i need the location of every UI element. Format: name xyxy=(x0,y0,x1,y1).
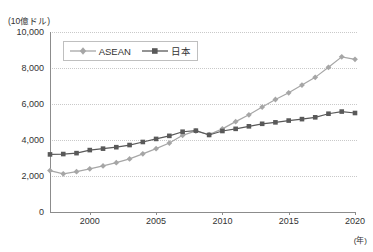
data-point-marker xyxy=(153,146,159,152)
data-point-marker xyxy=(61,152,66,157)
series-asean xyxy=(47,54,358,177)
data-point-marker xyxy=(260,122,265,127)
asean-series-marker-icon xyxy=(70,46,96,56)
data-point-marker xyxy=(140,151,146,157)
data-point-marker xyxy=(352,56,358,62)
data-point-marker xyxy=(299,82,305,88)
data-point-marker xyxy=(247,124,252,129)
data-point-marker xyxy=(167,134,172,139)
data-point-marker xyxy=(313,115,318,120)
series-japan xyxy=(48,109,358,156)
data-point-marker xyxy=(286,118,291,123)
data-point-marker xyxy=(47,168,53,174)
data-point-marker xyxy=(326,111,331,116)
legend-entry-japan: 日本 xyxy=(142,44,191,58)
data-point-marker xyxy=(127,156,133,162)
data-point-marker xyxy=(141,140,146,145)
data-point-marker xyxy=(87,148,92,153)
data-point-marker xyxy=(60,171,66,177)
legend-label-japan: 日本 xyxy=(171,44,191,58)
data-point-marker xyxy=(286,90,292,96)
data-point-marker xyxy=(74,151,79,156)
series-layer xyxy=(0,0,373,252)
data-point-marker xyxy=(180,129,185,134)
gdp-line-chart: (10億ドル) 02,0004,0006,0008,00010,000 2000… xyxy=(0,0,373,252)
data-point-marker xyxy=(273,97,279,103)
data-point-marker xyxy=(48,152,53,157)
data-point-marker xyxy=(74,169,80,175)
x-axis-unit-label: (年) xyxy=(354,234,367,245)
data-point-marker xyxy=(207,133,212,138)
legend-label-asean: ASEAN xyxy=(99,46,131,57)
data-point-marker xyxy=(113,160,119,166)
data-point-marker xyxy=(100,163,106,169)
data-point-marker xyxy=(127,143,132,148)
data-point-marker xyxy=(154,137,159,142)
data-point-marker xyxy=(220,129,225,134)
data-point-marker xyxy=(273,120,278,125)
japan-series-marker-icon xyxy=(142,46,168,56)
chart-legend: ASEAN 日本 xyxy=(63,41,198,61)
data-point-marker xyxy=(233,127,238,132)
data-point-marker xyxy=(233,119,239,125)
series-line xyxy=(50,112,355,155)
data-point-marker xyxy=(339,109,344,114)
data-point-marker xyxy=(246,112,252,118)
data-point-marker xyxy=(194,128,199,133)
data-point-marker xyxy=(114,145,119,150)
legend-entry-asean: ASEAN xyxy=(70,46,131,57)
series-line xyxy=(50,57,355,174)
data-point-marker xyxy=(300,117,305,122)
data-point-marker xyxy=(259,104,265,110)
data-point-marker xyxy=(166,140,172,146)
data-point-marker xyxy=(101,146,106,151)
data-point-marker xyxy=(87,166,93,172)
data-point-marker xyxy=(353,111,358,116)
